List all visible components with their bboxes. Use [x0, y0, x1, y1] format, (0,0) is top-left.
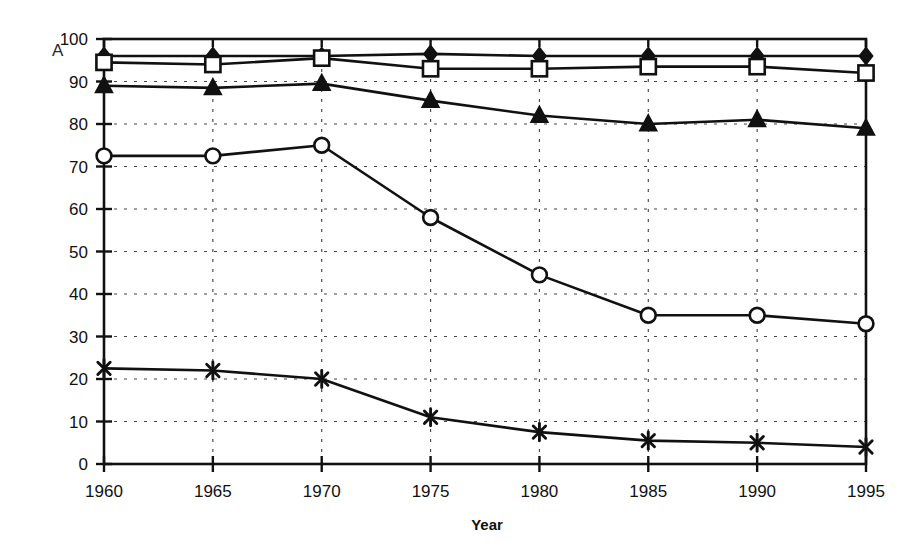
series-line — [104, 368, 866, 447]
y-axis-tick-label: 30 — [69, 328, 88, 347]
data-point-marker-filled-diamond — [859, 48, 872, 65]
x-axis-tick-label: 1995 — [847, 482, 885, 501]
data-point-marker-open-square — [641, 59, 656, 74]
data-point-marker-open-square — [314, 51, 329, 66]
y-axis-tick-label: 20 — [69, 370, 88, 389]
data-point-marker-filled-triangle — [96, 77, 113, 93]
y-axis-tick-label: 60 — [69, 200, 88, 219]
series-line — [104, 145, 866, 324]
data-point-marker-open-square — [532, 61, 547, 76]
data-point-marker-open-circle — [205, 148, 220, 163]
y-axis-tick-label: 90 — [69, 73, 88, 92]
line-chart: A 0102030405060708090100 196019651970197… — [0, 0, 899, 560]
x-axis-tick-label: 1975 — [412, 482, 450, 501]
x-axis-tick-label: 1985 — [629, 482, 667, 501]
y-axis-tick-label: 40 — [69, 285, 88, 304]
data-point-marker-filled-diamond — [424, 45, 437, 62]
y-axis-tick-labels: 0102030405060708090100 — [60, 30, 88, 474]
x-axis-tick-label: 1965 — [194, 482, 232, 501]
data-point-marker-open-circle — [859, 316, 874, 331]
x-axis-tick-label: 1970 — [303, 482, 341, 501]
x-axis-tick-labels: 19601965197019751980198519901995 — [85, 482, 885, 501]
y-axis-tick-label: 100 — [60, 30, 88, 49]
data-series-series-3 — [96, 74, 875, 134]
x-axis-title: Year — [471, 516, 503, 533]
axis-ticks — [96, 39, 866, 472]
data-point-marker-open-square — [205, 57, 220, 72]
data-point-marker-filled-triangle — [313, 74, 330, 90]
x-axis-tick-label: 1980 — [521, 482, 559, 501]
data-point-marker-open-square — [750, 59, 765, 74]
y-axis-tick-label: 70 — [69, 158, 88, 177]
data-point-marker-open-circle — [423, 210, 438, 225]
data-point-marker-open-circle — [97, 148, 112, 163]
y-axis-tick-label: 80 — [69, 115, 88, 134]
x-axis-tick-label: 1990 — [738, 482, 776, 501]
gridlines — [104, 39, 866, 464]
y-axis-tick-label: 50 — [69, 243, 88, 262]
data-point-marker-open-circle — [532, 267, 547, 282]
figure-panel: A 0102030405060708090100 196019651970197… — [0, 0, 899, 560]
data-point-marker-filled-triangle — [749, 111, 766, 127]
y-axis-tick-label: 0 — [79, 455, 88, 474]
data-point-marker-open-square — [423, 61, 438, 76]
y-axis-tick-label: 10 — [69, 413, 88, 432]
data-point-marker-open-square — [858, 65, 873, 80]
data-point-marker-open-circle — [641, 308, 656, 323]
data-point-marker-open-circle — [750, 308, 765, 323]
x-axis-tick-label: 1960 — [85, 482, 123, 501]
data-point-marker-open-circle — [314, 138, 329, 153]
data-series-series-5 — [98, 360, 872, 456]
data-point-marker-open-square — [96, 55, 111, 70]
